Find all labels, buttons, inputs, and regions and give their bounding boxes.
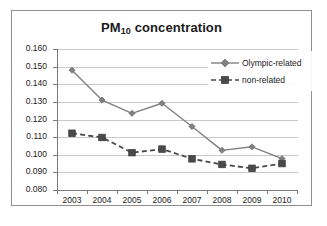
gridline [58, 49, 298, 50]
y-axis-tick [53, 155, 57, 156]
x-axis-tick-label: 2010 [262, 195, 302, 205]
chart-title-subscript: 10 [121, 26, 131, 36]
y-axis-tick [53, 120, 57, 121]
y-axis-tick-label: 0.120 [7, 114, 47, 124]
y-axis-tick [53, 49, 57, 50]
y-axis-tick-label: 0.130 [7, 96, 47, 106]
y-axis-tick-label: 0.150 [7, 61, 47, 71]
y-axis-tick-label: 0.160 [7, 43, 47, 53]
chart-legend: Olympic-related non-related [208, 51, 312, 91]
y-axis-tick-label: 0.140 [7, 78, 47, 88]
y-axis-tick-label: 0.110 [7, 131, 47, 141]
legend-key-square-icon [210, 74, 240, 86]
y-axis-tick [53, 67, 57, 68]
y-axis-tick [53, 172, 57, 173]
y-axis-tick [53, 102, 57, 103]
x-axis-tick [297, 190, 298, 194]
legend-item-non-related[interactable]: non-related [210, 71, 310, 88]
chart-figure: PM10 concentration Olympic-related non-r… [0, 0, 327, 226]
gridline [58, 172, 298, 173]
y-axis-tick [53, 84, 57, 85]
gridline [58, 120, 298, 121]
x-axis-tick [87, 190, 88, 194]
x-axis-tick [237, 190, 238, 194]
gridline [58, 102, 298, 103]
x-axis-tick [267, 190, 268, 194]
y-axis-tick-label: 0.080 [7, 184, 47, 194]
legend-label-olympic-related: Olympic-related [242, 58, 302, 68]
y-axis-tick [53, 137, 57, 138]
y-axis-tick-label: 0.090 [7, 166, 47, 176]
legend-label-non-related: non-related [242, 75, 285, 85]
x-axis-tick [147, 190, 148, 194]
gridline [58, 155, 298, 156]
legend-key-diamond-icon [210, 57, 240, 69]
x-axis-tick [117, 190, 118, 194]
x-axis-tick [177, 190, 178, 194]
x-axis-tick [207, 190, 208, 194]
gridline [58, 137, 298, 138]
y-axis-tick-label: 0.100 [7, 149, 47, 159]
chart-title: PM10 concentration [11, 20, 312, 35]
x-axis-tick [57, 190, 58, 194]
legend-item-olympic-related[interactable]: Olympic-related [210, 54, 310, 71]
chart-title-rest: concentration [131, 20, 222, 35]
chart-title-base: PM [101, 20, 121, 35]
